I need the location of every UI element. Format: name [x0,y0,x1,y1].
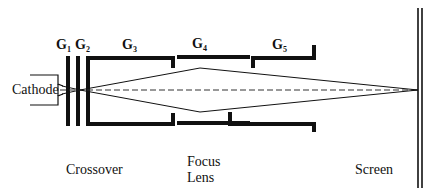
label-g3: G3 [122,37,137,54]
label-g4: G4 [192,36,207,53]
label-g4-sub: 4 [203,44,207,53]
label-g5-sub: 5 [283,45,287,54]
label-g1: G1 [56,37,71,54]
label-g1-sub: 1 [67,45,71,54]
label-g2-letter: G [75,37,86,52]
label-g5: G5 [272,37,287,54]
electrode-g3 [86,56,175,126]
focus-lens-caption-line2: Lens [187,170,214,186]
cathode-label: Cathode [12,82,59,98]
label-g2: G2 [75,37,90,54]
screen [418,8,422,188]
label-g3-letter: G [122,37,133,52]
focus-lens-caption-line1: Focus [187,154,220,170]
electrode-g1 [66,56,70,126]
label-g3-sub: 3 [133,45,137,54]
label-g5-letter: G [272,37,283,52]
label-g4-letter: G [192,36,203,51]
screen-caption: Screen [355,162,393,178]
label-g2-sub: 2 [86,45,90,54]
crossover-caption: Crossover [66,162,123,178]
label-g1-letter: G [56,37,67,52]
